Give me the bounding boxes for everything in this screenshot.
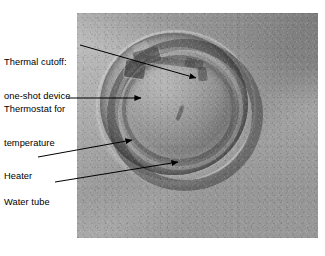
figure-canvas: Thermal cutoff: one-shot device Thermost… [0, 0, 325, 256]
callout-label-thermostat-line1: Thermostat for [4, 104, 65, 115]
photo-film-grain [77, 13, 318, 238]
water-heater-opening-photo [77, 13, 318, 238]
callout-label-water-tube: Water tube [4, 174, 50, 231]
callout-label-water-tube-line1: Water tube [4, 197, 50, 208]
callout-label-thermal-cutoff-line1: Thermal cutoff: [4, 57, 70, 68]
